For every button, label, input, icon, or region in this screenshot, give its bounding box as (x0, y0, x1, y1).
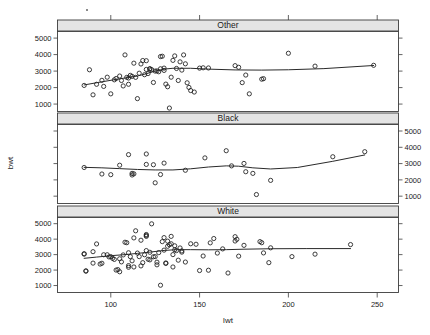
panel-white: White10002000300040005000100150200250 (35, 206, 403, 309)
y-tick-label: 5000 (35, 34, 52, 43)
strip-label-white: White (217, 206, 239, 216)
y-tick-label: 3000 (35, 67, 52, 76)
y-tick-label: 3000 (405, 159, 422, 168)
scan-speck (86, 9, 88, 11)
plot-canvas: Other10002000300040005000Black1000200030… (0, 0, 430, 335)
panel-frame-black (58, 125, 399, 204)
x-tick-label: 150 (193, 300, 206, 309)
x-tick-label: 100 (105, 300, 118, 309)
panel-other: Other10002000300040005000 (35, 15, 403, 112)
y-tick-label: 5000 (405, 127, 422, 136)
trellis-plot: Other10002000300040005000Black1000200030… (0, 0, 430, 335)
y-tick-label: 2000 (35, 83, 52, 92)
y-tick-label: 5000 (35, 219, 52, 228)
y-tick-label: 4000 (35, 50, 52, 59)
strip-label-black: Black (218, 113, 240, 123)
y-tick-label: 1000 (35, 281, 52, 290)
strip-label-other: Other (217, 20, 238, 30)
panel-frame-other (58, 32, 399, 112)
y-axis-label: bwt (6, 156, 15, 169)
y-tick-label: 3000 (35, 250, 52, 259)
y-tick-label: 1000 (35, 100, 52, 109)
y-tick-label: 1000 (405, 192, 422, 201)
panel-black: Black10002000300040005000 (54, 113, 422, 204)
y-tick-label: 4000 (405, 143, 422, 152)
x-tick-label: 200 (282, 300, 295, 309)
y-tick-label: 4000 (35, 235, 52, 244)
x-tick-label: 250 (371, 300, 384, 309)
x-axis-label: lwt (223, 316, 234, 325)
y-tick-label: 2000 (35, 266, 52, 275)
y-tick-label: 2000 (405, 176, 422, 185)
